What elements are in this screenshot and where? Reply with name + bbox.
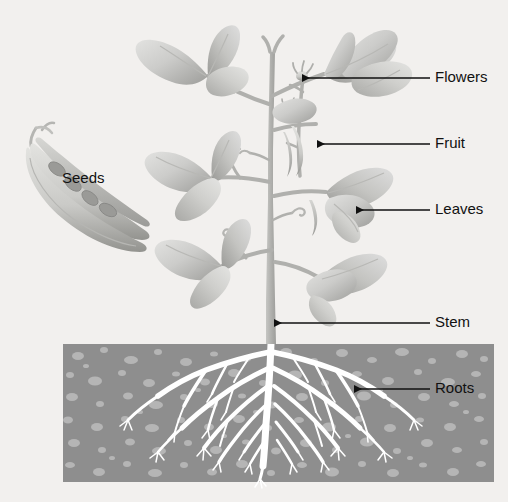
plant-diagram: Flowers Fruit Leaves Stem Roots Seeds bbox=[0, 0, 508, 502]
plant-diagram-canvas: Flowers Fruit Leaves Stem Roots Seeds bbox=[0, 0, 508, 502]
label-fruit: Fruit bbox=[435, 134, 466, 151]
label-seeds: Seeds bbox=[62, 169, 105, 186]
label-stem: Stem bbox=[435, 313, 470, 330]
label-flowers: Flowers bbox=[435, 68, 488, 85]
label-roots: Roots bbox=[435, 379, 474, 396]
label-leaves: Leaves bbox=[435, 200, 483, 217]
soil-region bbox=[63, 344, 494, 482]
